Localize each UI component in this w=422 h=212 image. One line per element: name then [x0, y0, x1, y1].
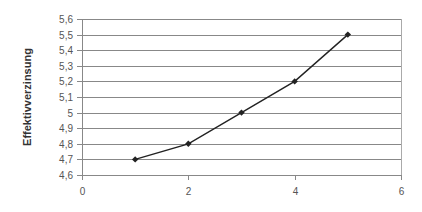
y-tick-label: 5,1	[59, 92, 73, 103]
y-axis-tick-labels: 4,64,74,84,955,15,25,35,45,55,6	[59, 14, 73, 181]
diamond-marker	[132, 156, 138, 162]
x-axis-tick-labels: 0246	[80, 186, 405, 197]
y-tick-label: 5,6	[59, 14, 73, 25]
x-tick-label: 6	[399, 186, 405, 197]
diamond-marker	[238, 109, 244, 115]
line-chart: 4,64,74,84,955,15,25,35,45,55,6 0246 Eff…	[0, 0, 422, 212]
y-tick-label: 5,4	[59, 45, 73, 56]
gridlines	[82, 20, 401, 176]
y-tick-label: 4,7	[59, 154, 73, 165]
x-tick-label: 0	[80, 186, 86, 197]
y-tick-label: 5,5	[59, 30, 73, 41]
diamond-marker	[185, 141, 191, 147]
y-tick-label: 4,6	[59, 170, 73, 181]
y-tick-label: 5,2	[59, 76, 73, 87]
y-axis-title: Effektivverzinsung	[21, 48, 33, 146]
axes	[77, 19, 402, 180]
y-tick-label: 4,8	[59, 139, 73, 150]
x-tick-label: 4	[293, 186, 299, 197]
y-tick-label: 4,9	[59, 123, 73, 134]
y-tick-label: 5,3	[59, 61, 73, 72]
x-tick-label: 2	[186, 186, 192, 197]
y-tick-label: 5	[67, 108, 73, 119]
